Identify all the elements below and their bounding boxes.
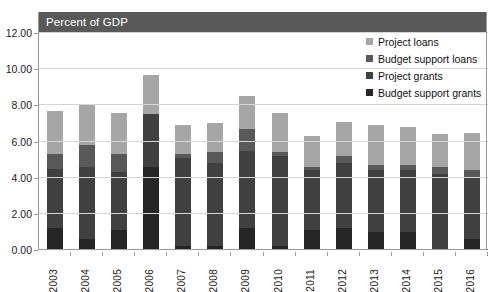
x-axis-tick <box>295 252 296 256</box>
bar-segment <box>111 154 127 172</box>
bar-segment <box>432 134 448 167</box>
y-axis-tick-label: 2.00 <box>0 208 32 220</box>
bar-segment <box>432 167 448 174</box>
y-axis-tick <box>34 142 38 143</box>
bar-segment <box>304 230 320 250</box>
x-axis-tick-label: 2004 <box>80 269 91 292</box>
x-axis-tick-label: 2003 <box>48 269 59 292</box>
x-axis-tick-label: 2013 <box>369 269 380 292</box>
bar-segment <box>400 170 416 231</box>
bar-segment <box>464 178 480 239</box>
y-axis-tick-label: 8.00 <box>0 99 32 111</box>
y-axis-tick-label: 4.00 <box>0 172 32 184</box>
bar-segment <box>207 152 223 163</box>
x-axis-tick <box>198 252 199 256</box>
bar-segment <box>368 232 384 250</box>
bar-segment <box>400 232 416 250</box>
bar-segment <box>111 113 127 155</box>
legend-label: Budget support loans <box>378 53 477 65</box>
x-axis-tick-label: 2008 <box>208 269 219 292</box>
gridline <box>39 104 488 105</box>
bar-segment <box>400 127 416 165</box>
chart-container: Percent of GDP 0.002.004.006.008.0010.00… <box>0 0 495 292</box>
bar-stack <box>207 123 223 250</box>
x-axis-tick-label: 2010 <box>273 269 284 292</box>
bar-stack <box>175 125 191 250</box>
bar-segment <box>111 230 127 250</box>
x-axis-tick-label: 2006 <box>144 269 155 292</box>
y-axis-tick <box>34 250 38 251</box>
y-axis-tick <box>34 178 38 179</box>
bar-segment <box>47 154 63 168</box>
x-axis-tick <box>166 252 167 256</box>
bar-segment <box>175 158 191 247</box>
x-axis-tick-label: 2011 <box>305 269 316 292</box>
x-axis-tick-label: 2016 <box>465 269 476 292</box>
y-axis-tick <box>34 214 38 215</box>
bar-stack <box>239 96 255 250</box>
chart-title-banner: Percent of GDP <box>38 12 487 33</box>
bar-segment <box>272 113 288 153</box>
x-axis-tick-label: 2014 <box>401 269 412 292</box>
gridline <box>39 213 488 214</box>
x-axis-tick <box>327 252 328 256</box>
gridline <box>39 141 488 142</box>
x-axis-tick <box>391 252 392 256</box>
x-axis: 2003200420052006200720082009201020112012… <box>38 252 487 292</box>
bar-segment <box>47 228 63 250</box>
x-axis-tick <box>70 252 71 256</box>
legend-label: Project grants <box>378 70 443 82</box>
bar-segment <box>336 163 352 228</box>
bar-segment <box>336 228 352 250</box>
bar-segment <box>368 125 384 165</box>
x-axis-tick <box>359 252 360 256</box>
y-axis-tick-label: 0.00 <box>0 244 32 256</box>
x-axis-tick <box>455 252 456 256</box>
bar-stack <box>272 113 288 250</box>
bar-segment <box>111 172 127 230</box>
bar-stack <box>400 127 416 250</box>
bar-segment <box>272 156 288 246</box>
legend-label: Project loans <box>378 36 439 48</box>
y-axis-tick <box>34 105 38 106</box>
bar-segment <box>336 122 352 156</box>
legend-swatch-icon <box>366 89 373 96</box>
x-axis-tick-label: 2009 <box>240 269 251 292</box>
bar-stack <box>304 136 320 250</box>
bar-stack <box>432 134 448 250</box>
bar-segment <box>143 167 159 250</box>
x-axis-tick <box>102 252 103 256</box>
y-axis-tick <box>34 33 38 34</box>
bar-segment <box>207 123 223 152</box>
x-axis-tick-label: 2015 <box>433 269 444 292</box>
legend-item[interactable]: Project grants <box>366 67 492 84</box>
x-axis-tick-label: 2012 <box>337 269 348 292</box>
legend-swatch-icon <box>366 38 373 45</box>
gridline <box>39 177 488 178</box>
x-axis-tick-label: 2007 <box>176 269 187 292</box>
x-axis-tick <box>487 252 488 256</box>
bar-segment <box>79 104 95 146</box>
y-axis-tick-label: 10.00 <box>0 63 32 75</box>
bar-segment <box>47 111 63 154</box>
bar-stack <box>464 133 480 251</box>
bar-segment <box>239 151 255 229</box>
y-axis-tick-label: 12.00 <box>0 27 32 39</box>
y-axis-tick <box>34 69 38 70</box>
x-axis-tick <box>134 252 135 256</box>
legend-swatch-icon <box>366 55 373 62</box>
legend-item[interactable]: Project loans <box>366 33 492 50</box>
x-axis-tick <box>230 252 231 256</box>
axis-baseline <box>39 249 488 250</box>
bar-segment <box>239 228 255 250</box>
legend-item[interactable]: Budget support loans <box>366 50 492 67</box>
bar-segment <box>79 167 95 239</box>
y-axis-tick-label: 6.00 <box>0 136 32 148</box>
chart-legend: Project loansBudget support loansProject… <box>366 33 492 101</box>
x-axis-tick <box>423 252 424 256</box>
bar-stack <box>143 75 159 250</box>
legend-item[interactable]: Budget support grants <box>366 84 492 101</box>
x-axis-tick <box>263 252 264 256</box>
bar-segment <box>464 133 480 171</box>
bar-segment <box>304 170 320 230</box>
